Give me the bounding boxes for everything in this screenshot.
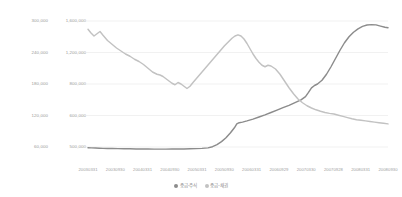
legend-label: 중금-채권	[210, 184, 228, 189]
legend-label: 중금-주식	[180, 184, 198, 189]
axis-tick-label: 120,000	[32, 113, 48, 117]
x-axis: 2003033120030930200403312004093020050331…	[88, 168, 388, 178]
axis-tick-label: 1,200,000	[66, 50, 86, 54]
axis-tick-label: 500,000	[70, 145, 86, 149]
x-axis-tick-label: 20050930	[215, 168, 234, 172]
chart-legend: 중금-주식중금-채권	[0, 184, 402, 189]
x-axis-tick-label: 20040930	[160, 168, 179, 172]
x-axis-tick-label: 20030331	[78, 168, 97, 172]
x-axis-tick-label: 20060929	[269, 168, 288, 172]
x-axis-tick-label: 20060331	[242, 168, 261, 172]
series-line-fund-bond	[88, 29, 388, 124]
x-axis-tick-label: 20040331	[133, 168, 152, 172]
x-axis-tick-label: 20070330	[297, 168, 316, 172]
axis-tick-label: 180,000	[32, 82, 48, 86]
series-line-fund-equity	[88, 25, 388, 150]
gridlines	[84, 21, 388, 147]
line-chart: 300,000240,000180,000120,00060,000 1,600…	[0, 0, 402, 197]
x-axis-tick-label: 20070928	[324, 168, 343, 172]
x-axis-tick-label: 20080930	[378, 168, 397, 172]
series-lines	[88, 25, 388, 150]
plot-svg	[88, 12, 388, 162]
axis-tick-label: 800,000	[70, 82, 86, 86]
axis-tick-label: 300,000	[32, 19, 48, 23]
legend-marker-icon	[205, 184, 209, 188]
legend-item-fund-equity[interactable]: 중금-주식	[174, 184, 197, 189]
legend-item-fund-bond[interactable]: 중금-채권	[205, 184, 228, 189]
x-axis-tick-label: 20080331	[351, 168, 370, 172]
axis-tick-label: 600,000	[70, 113, 86, 117]
x-axis-tick-label: 20050331	[188, 168, 207, 172]
axis-tick-label: 60,000	[34, 145, 48, 149]
legend-marker-icon	[174, 184, 178, 188]
plot-area	[88, 12, 388, 162]
x-axis-tick-label: 20030930	[106, 168, 125, 172]
axis-tick-label: 240,000	[32, 50, 48, 54]
axis-tick-label: 1,600,000	[66, 19, 86, 23]
